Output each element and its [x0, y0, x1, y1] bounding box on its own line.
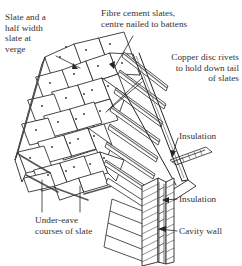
label-copper-disc-rivets: Copper disc rivets to hold down tail of … [136, 52, 239, 84]
label-insulation-roof: Insulation [179, 131, 216, 142]
figure-root: Slate and a half width slate at verge Fi… [0, 0, 242, 266]
label-under-eave-courses: Under-eave courses of slate [35, 215, 92, 236]
label-slate-and-a-half-width: Slate and a half width slate at verge [5, 12, 46, 54]
label-insulation-wall: Insulation [179, 194, 216, 205]
label-cavity-wall: Cavity wall [179, 226, 222, 237]
label-fibre-cement-slates: Fibre cement slates, centre nailed to ba… [101, 8, 187, 29]
